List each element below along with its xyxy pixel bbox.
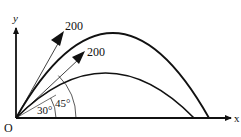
y-axis-label: y (12, 12, 18, 24)
arrowhead-upper-icon (51, 31, 64, 46)
speed-label-lower: 200 (87, 45, 105, 59)
angle-label-30: 30° (37, 104, 52, 116)
speed-label-upper: 200 (65, 19, 83, 33)
arrowhead-lower-icon (72, 51, 85, 64)
x-axis-label: x (234, 112, 240, 124)
origin-label: O (4, 121, 13, 135)
angle-label-45: 45° (55, 97, 70, 109)
projectile-diagram: 200 200 30° 45° O y x (0, 0, 241, 137)
